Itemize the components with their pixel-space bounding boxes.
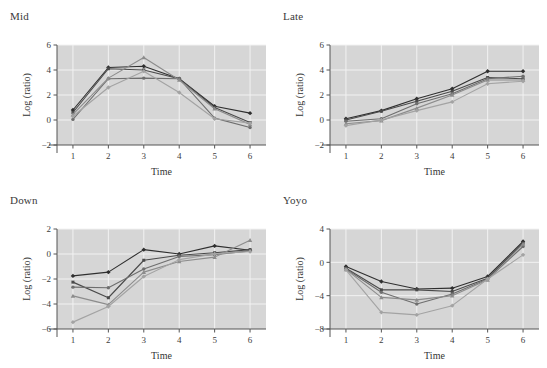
x-axis-tick-label: 1 [344, 335, 349, 345]
data-point-marker [521, 75, 524, 78]
y-axis-tick-label: −2 [41, 274, 51, 284]
y-axis-tick-label: 4 [47, 65, 52, 75]
x-axis-tick-label: 3 [415, 335, 420, 345]
x-axis-tick-label: 2 [106, 335, 111, 345]
plot-area: −8−404123456TimeLog (ratio) [273, 184, 546, 368]
x-axis-tick-label: 2 [106, 151, 111, 161]
data-point-marker [380, 291, 383, 294]
y-axis-label: Log (ratio) [294, 257, 306, 301]
x-axis-tick-label: 1 [71, 335, 76, 345]
y-axis-tick-label: 6 [47, 40, 52, 50]
x-axis-label: Time [424, 350, 445, 361]
y-axis-label: Log (ratio) [21, 73, 33, 117]
x-axis-tick-label: 3 [142, 151, 147, 161]
y-axis-tick-label: 2 [47, 90, 52, 100]
data-point-marker [107, 286, 110, 289]
y-axis-tick-label: 0 [320, 115, 325, 125]
x-axis-label: Time [424, 166, 445, 177]
figure-canvas: Mid −20246123456TimeLog (ratio) Late −20… [0, 0, 547, 368]
y-axis-tick-label: 4 [320, 65, 325, 75]
y-axis-tick-label: −4 [41, 299, 51, 309]
x-axis-tick-label: 1 [344, 151, 349, 161]
y-axis-tick-label: 6 [320, 40, 325, 50]
data-point-marker [142, 259, 145, 262]
plot-area: −20246123456TimeLog (ratio) [0, 0, 273, 184]
x-axis-tick-label: 6 [248, 151, 253, 161]
x-axis-tick-label: 4 [450, 151, 455, 161]
y-axis-tick-label: −2 [41, 140, 51, 150]
x-axis-tick-label: 6 [521, 151, 526, 161]
x-axis-tick-label: 6 [521, 335, 526, 345]
data-point-marker [142, 76, 145, 79]
x-axis-tick-label: 5 [212, 151, 217, 161]
x-axis-tick-label: 1 [71, 151, 76, 161]
x-axis-tick-label: 4 [177, 151, 182, 161]
data-point-marker [107, 67, 110, 70]
chart-panel-mid: Mid −20246123456TimeLog (ratio) [0, 0, 273, 184]
y-axis-tick-label: 4 [320, 224, 325, 234]
y-axis-tick-label: 0 [47, 115, 52, 125]
y-axis-tick-label: −8 [314, 324, 324, 334]
x-axis-tick-label: 4 [177, 335, 182, 345]
y-axis-tick-label: −4 [314, 291, 324, 301]
chart-panel-late: Late −20246123456TimeLog (ratio) [273, 0, 546, 184]
y-axis-tick-label: −2 [314, 140, 324, 150]
x-axis-label: Time [151, 350, 172, 361]
x-axis-tick-label: 5 [485, 151, 490, 161]
x-axis-tick-label: 3 [142, 335, 147, 345]
x-axis-tick-label: 5 [212, 335, 217, 345]
data-point-marker [415, 288, 418, 291]
data-point-marker [71, 281, 74, 284]
y-axis-tick-label: 2 [320, 90, 325, 100]
data-point-marker [380, 110, 383, 113]
chart-panel-down: Down −6−4−202123456TimeLog (ratio) [0, 184, 273, 368]
data-point-marker [248, 126, 251, 129]
data-point-marker [415, 102, 418, 105]
x-axis-tick-label: 5 [485, 335, 490, 345]
x-axis-tick-label: 3 [415, 151, 420, 161]
data-point-marker [71, 285, 74, 288]
x-axis-tick-label: 6 [248, 335, 253, 345]
chart-panel-yoyo: Yoyo −8−404123456TimeLog (ratio) [273, 184, 546, 368]
y-axis-label: Log (ratio) [21, 257, 33, 301]
y-axis-tick-label: 0 [47, 249, 52, 259]
plot-area: −6−4−202123456TimeLog (ratio) [0, 184, 273, 368]
x-axis-tick-label: 4 [450, 335, 455, 345]
x-axis-label: Time [151, 166, 172, 177]
y-axis-tick-label: −6 [41, 324, 51, 334]
data-point-marker [415, 302, 418, 305]
plot-area: −20246123456TimeLog (ratio) [273, 0, 546, 184]
data-point-marker [107, 296, 110, 299]
y-axis-tick-label: 0 [320, 258, 325, 268]
x-axis-tick-label: 2 [379, 335, 384, 345]
y-axis-label: Log (ratio) [294, 73, 306, 117]
x-axis-tick-label: 2 [379, 151, 384, 161]
y-axis-tick-label: 2 [47, 224, 52, 234]
